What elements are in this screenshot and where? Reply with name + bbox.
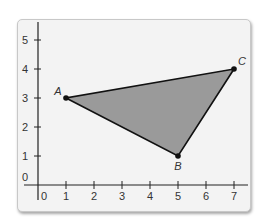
x-tick-label: 1	[63, 190, 69, 202]
x-ticks: 01234567	[41, 181, 237, 202]
y-tick-label: 3	[22, 92, 28, 104]
vertex-b	[175, 153, 181, 159]
y-tick-label: 1	[22, 150, 28, 162]
vertex-a	[63, 95, 69, 101]
y-tick-label: 0	[22, 171, 28, 183]
vertex-label: B	[174, 160, 181, 172]
y-tick-label: 5	[22, 34, 28, 46]
y-tick-label: 4	[22, 63, 28, 75]
vertex-c	[231, 66, 237, 72]
x-tick-label: 6	[203, 190, 209, 202]
vertex-label: A	[53, 85, 61, 97]
coordinate-plane: 01234567 012345 ABC	[0, 0, 267, 221]
x-tick-label: 4	[147, 190, 153, 202]
x-tick-label: 0	[41, 190, 47, 202]
vertex-label: C	[238, 55, 246, 67]
y-tick-label: 2	[22, 121, 28, 133]
x-tick-label: 7	[231, 190, 237, 202]
x-tick-label: 2	[91, 190, 97, 202]
triangle-abc	[66, 69, 234, 156]
x-tick-label: 3	[119, 190, 125, 202]
x-tick-label: 5	[175, 190, 181, 202]
